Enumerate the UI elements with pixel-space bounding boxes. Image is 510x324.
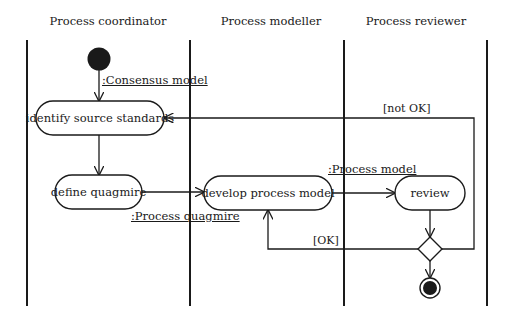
swimlane-dividers xyxy=(27,40,487,306)
object-label-process-quagmire: :Process quagmire xyxy=(131,209,240,223)
lane-title-coordinator: Process coordinator xyxy=(28,14,188,28)
guard-ok: [OK] xyxy=(313,234,339,247)
lane-title-modeller: Process modeller xyxy=(191,14,351,28)
label-review: review xyxy=(395,176,465,210)
label-define-quagmire: define quagmire xyxy=(55,175,142,209)
object-label-process-model: :Process model xyxy=(328,162,416,176)
lane-title-reviewer: Process reviewer xyxy=(336,14,496,28)
decision-node[interactable] xyxy=(418,237,442,261)
object-label-consensus-model: :Consensus model xyxy=(102,73,208,87)
initial-node[interactable] xyxy=(88,48,111,71)
activity-diagram-canvas xyxy=(0,0,510,324)
label-develop-process-model: develop process model xyxy=(204,176,332,210)
final-node[interactable] xyxy=(420,278,440,298)
guard-not-ok: [not OK] xyxy=(383,102,430,115)
label-identify-source-standards: identify source standards xyxy=(36,101,164,135)
